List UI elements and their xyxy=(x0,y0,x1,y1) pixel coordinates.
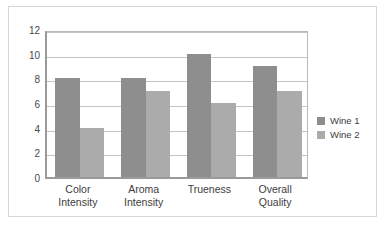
bar xyxy=(187,54,212,177)
x-axis-tick-label: AromaIntensity xyxy=(111,183,177,208)
y-axis-tick-labels: 024681012 xyxy=(9,31,40,179)
bar xyxy=(211,103,236,177)
bar xyxy=(146,91,171,177)
chart-legend: Wine 1Wine 2 xyxy=(317,115,375,143)
x-axis-tick-label: Trueness xyxy=(177,183,243,196)
legend-item: Wine 1 xyxy=(317,115,375,127)
y-axis-tick-label: 8 xyxy=(14,75,40,85)
gridline xyxy=(47,57,307,58)
bar xyxy=(80,128,105,177)
bar xyxy=(253,66,278,177)
legend-item: Wine 2 xyxy=(317,129,375,141)
bar xyxy=(121,78,146,177)
legend-swatch-icon xyxy=(317,131,325,139)
bar xyxy=(277,91,302,177)
x-axis-tick-label-line: Aroma xyxy=(111,183,177,196)
y-axis-tick-label: 0 xyxy=(14,174,40,184)
y-axis-tick-label: 2 xyxy=(14,149,40,159)
bar xyxy=(55,78,80,177)
y-axis-tick-label: 12 xyxy=(14,26,40,36)
x-axis-tick-label-line: Intensity xyxy=(45,196,111,209)
y-axis-tick-label: 4 xyxy=(14,125,40,135)
legend-label: Wine 2 xyxy=(330,130,360,140)
x-axis-tick-label-line: Overall xyxy=(242,183,308,196)
gridline xyxy=(47,32,307,33)
x-axis-tick-label: ColorIntensity xyxy=(45,183,111,208)
x-axis-tick-labels: ColorIntensityAromaIntensityTruenessOver… xyxy=(45,183,308,217)
x-axis-tick-label-line: Intensity xyxy=(111,196,177,209)
x-axis-tick-label: OverallQuality xyxy=(242,183,308,208)
legend-swatch-icon xyxy=(317,117,325,125)
plot-area xyxy=(45,31,308,179)
x-axis-tick-label-line: Quality xyxy=(242,196,308,209)
x-axis-tick-label-line: Trueness xyxy=(177,183,243,196)
legend-label: Wine 1 xyxy=(330,116,360,126)
chart-frame: 024681012 ColorIntensityAromaIntensityTr… xyxy=(8,6,377,217)
y-axis-tick-label: 6 xyxy=(14,100,40,110)
x-axis-tick-label-line: Color xyxy=(45,183,111,196)
y-axis-tick-label: 10 xyxy=(14,51,40,61)
